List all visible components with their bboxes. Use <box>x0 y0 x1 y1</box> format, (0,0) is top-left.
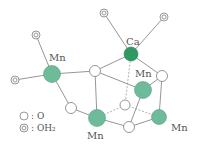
mn-atom-right-lower <box>152 110 167 125</box>
oxygen-legend-icon <box>20 112 28 120</box>
legend-water-label: : OH₂ <box>31 123 56 133</box>
oxygen-atoms <box>66 66 168 133</box>
mn-atom-bottom <box>89 110 106 127</box>
oxygen-atom <box>157 71 168 82</box>
legend: : O : OH₂ <box>20 111 56 133</box>
oh2-icon <box>160 13 168 21</box>
oh2-icon <box>100 9 108 17</box>
mn-atom-left <box>44 66 61 83</box>
mn-atom-right-upper <box>135 82 152 99</box>
oxygen-atom <box>90 66 101 77</box>
mn-right-lower-label: Mn <box>171 122 188 133</box>
oxygen-atom <box>124 122 135 133</box>
ca-atom <box>124 47 138 61</box>
mn-right-upper-label: Mn <box>135 68 152 79</box>
oxygen-atom <box>66 103 77 114</box>
mn-bottom-label: Mn <box>87 130 104 141</box>
oh2-icon <box>32 31 40 39</box>
mn4ca-cluster-diagram: Ca Mn Mn Mn Mn : O : OH₂ <box>0 0 198 146</box>
legend-oxygen-label: : O <box>31 111 44 121</box>
oxygen-atom <box>120 100 130 110</box>
ca-label: Ca <box>126 36 140 47</box>
mn-left-label: Mn <box>49 52 66 63</box>
oh2-legend-icon <box>20 124 28 132</box>
oh2-icon <box>11 76 19 84</box>
